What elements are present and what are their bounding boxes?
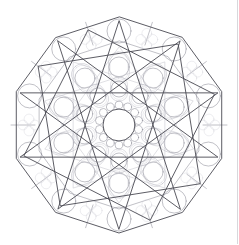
artwork-canvas (0, 0, 239, 245)
right-edge-rule (237, 0, 238, 245)
canvas-background (0, 0, 239, 245)
mandala-drawing (0, 0, 239, 245)
